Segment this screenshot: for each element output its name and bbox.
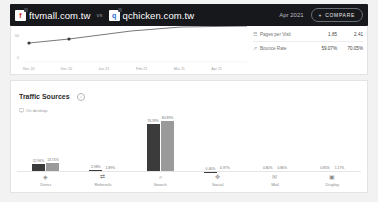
favicon-a-letter: f xyxy=(19,12,21,19)
bar-wrap: 12.96% xyxy=(32,109,45,172)
bar-value-label: 0.85% xyxy=(320,166,330,170)
traffic-sources-bar-chart: 12.96% 13.74% 2.98% xyxy=(11,109,367,194)
site-a-name: ftvmall.com.tw xyxy=(29,10,91,21)
category-social[interactable]: ✥ Social xyxy=(189,172,246,192)
category-label: Search xyxy=(154,182,167,187)
add-compare-button[interactable]: + COMPARE xyxy=(311,8,363,22)
direct-icon: ◈ xyxy=(43,174,48,180)
favicon-b-letter: q xyxy=(112,12,116,19)
bar-plot-area: 12.96% 13.74% 2.98% xyxy=(17,109,361,172)
referrals-icon: ⇄ xyxy=(100,174,105,180)
bar-wrap: 80.89% xyxy=(161,109,174,172)
category-label: Mail xyxy=(271,182,279,187)
favicon-ftvmall-icon: f xyxy=(15,10,26,21)
category-direct[interactable]: ◈ Direct xyxy=(17,172,74,192)
y-axis-tick-max: 60 xyxy=(15,34,19,38)
bar-group-mail: 0.80% 0.86% xyxy=(246,109,303,172)
bar-value-label: 0.86% xyxy=(277,166,287,170)
bar-series-b[interactable] xyxy=(161,121,174,172)
bounce-icon: ↗ xyxy=(253,46,260,51)
bar-wrap: 13.74% xyxy=(46,109,59,172)
category-label: Display xyxy=(325,182,339,187)
metric-value-site-b: 2.41 xyxy=(337,32,363,37)
metric-value-site-a: 59.07% xyxy=(311,46,337,51)
comparison-header: f ftvmall.com.tw vs q qchicken.com.tw Ap… xyxy=(10,4,368,26)
category-label: Direct xyxy=(40,182,51,187)
search-icon: ⌕ xyxy=(159,174,162,180)
metric-value-site-a: 1.85 xyxy=(311,32,337,37)
x-axis-label: Mar 21 xyxy=(174,67,212,71)
bar-wrap: 0.97% xyxy=(218,109,231,172)
x-axis-label: Feb 21 xyxy=(136,67,174,71)
metric-value-site-b: 70.05% xyxy=(337,46,363,51)
metric-row-bounce-rate: ↗ Bounce Rate 59.07% 70.05% xyxy=(253,42,363,55)
y-axis-tick-zero: 0 xyxy=(17,56,19,60)
page-title: Traffic Sources xyxy=(19,93,70,100)
bar-group-social: 0.46% 0.97% xyxy=(189,109,246,172)
vs-label: vs xyxy=(97,12,103,18)
social-icon: ✥ xyxy=(215,174,220,180)
bar-wrap: 0.85% xyxy=(319,109,332,172)
mail-icon: ✉ xyxy=(272,174,277,180)
x-axis-label: Nov 20 xyxy=(23,67,61,71)
app-page: f ftvmall.com.tw vs q qchicken.com.tw Ap… xyxy=(0,0,378,202)
favicon-qchicken-icon: q xyxy=(109,10,120,21)
metric-label: Pages per Visit xyxy=(260,32,311,37)
metrics-list: ☰ Pages per Visit 1.85 2.41 ↗ Bounce Rat… xyxy=(249,26,367,74)
bar-wrap: 0.86% xyxy=(276,109,289,172)
category-referrals[interactable]: ⇄ Referrals xyxy=(74,172,131,192)
bar-wrap: 76.39% xyxy=(147,109,160,172)
bar-wrap: 0.46% xyxy=(204,109,217,172)
bar-group-referrals: 2.98% 1.89% xyxy=(74,109,131,172)
x-axis-label: Jan 21 xyxy=(98,67,136,71)
site-b[interactable]: q qchicken.com.tw xyxy=(109,10,195,21)
site-a[interactable]: f ftvmall.com.tw xyxy=(15,10,91,21)
category-label: Referrals xyxy=(94,182,111,187)
bar-wrap: 2.98% xyxy=(89,109,102,172)
bar-value-label: 1.17% xyxy=(335,166,345,170)
line-chart-x-axis: Nov 20 Dec 20 Jan 21 Feb 21 Mar 21 Apr 2… xyxy=(11,67,249,71)
bar-value-label: 0.80% xyxy=(263,166,273,170)
date-range-selector[interactable]: Apr 2021 xyxy=(279,12,303,18)
bar-value-label: 13.74% xyxy=(47,158,59,162)
bar-group-direct: 12.96% 13.74% xyxy=(17,109,74,172)
bar-group-display: 0.85% 1.17% xyxy=(304,109,361,172)
traffic-sources-card: Traffic Sources i On desktop 12.96% xyxy=(10,80,368,193)
bar-value-label: 1.89% xyxy=(105,166,115,170)
site-b-name: qchicken.com.tw xyxy=(123,10,195,21)
bar-wrap: 1.89% xyxy=(104,109,117,172)
plus-icon: + xyxy=(319,12,323,18)
compare-button-label: COMPARE xyxy=(325,12,355,18)
pages-icon: ☰ xyxy=(253,32,260,37)
bar-value-label: 12.96% xyxy=(33,159,45,163)
bar-value-label: 2.98% xyxy=(91,165,101,169)
traffic-line-chart: 60 0 Nov 20 Dec 20 Jan 21 Feb 21 Mar 21 … xyxy=(11,26,249,74)
category-axis: ◈ Direct ⇄ Referrals ⌕ Search ✥ Social ✉ xyxy=(17,172,361,192)
bar-group-search: 76.39% 80.89% xyxy=(132,109,189,172)
bar-value-label: 76.39% xyxy=(147,119,159,123)
category-search[interactable]: ⌕ Search xyxy=(132,172,189,192)
category-display[interactable]: ▣ Display xyxy=(304,172,361,192)
metric-label: Bounce Rate xyxy=(260,46,311,51)
bar-wrap: 1.17% xyxy=(333,109,346,172)
info-icon[interactable]: i xyxy=(77,93,85,101)
category-label: Social xyxy=(212,182,223,187)
x-axis-label: Dec 20 xyxy=(61,67,99,71)
bar-groups: 12.96% 13.74% 2.98% xyxy=(17,109,361,172)
bar-wrap: 0.80% xyxy=(261,109,274,172)
line-chart-svg xyxy=(11,26,249,68)
overview-card: 60 0 Nov 20 Dec 20 Jan 21 Feb 21 Mar 21 … xyxy=(10,26,368,75)
x-axis-label: Apr 21 xyxy=(211,67,249,71)
bar-series-a[interactable] xyxy=(147,124,160,172)
category-mail[interactable]: ✉ Mail xyxy=(246,172,303,192)
bar-value-label: 0.97% xyxy=(220,166,230,170)
header-controls: Apr 2021 + COMPARE xyxy=(279,8,363,22)
bar-value-label: 80.89% xyxy=(162,116,174,120)
display-icon: ▣ xyxy=(329,174,335,180)
metric-row-pages-per-visit: ☰ Pages per Visit 1.85 2.41 xyxy=(253,28,363,42)
